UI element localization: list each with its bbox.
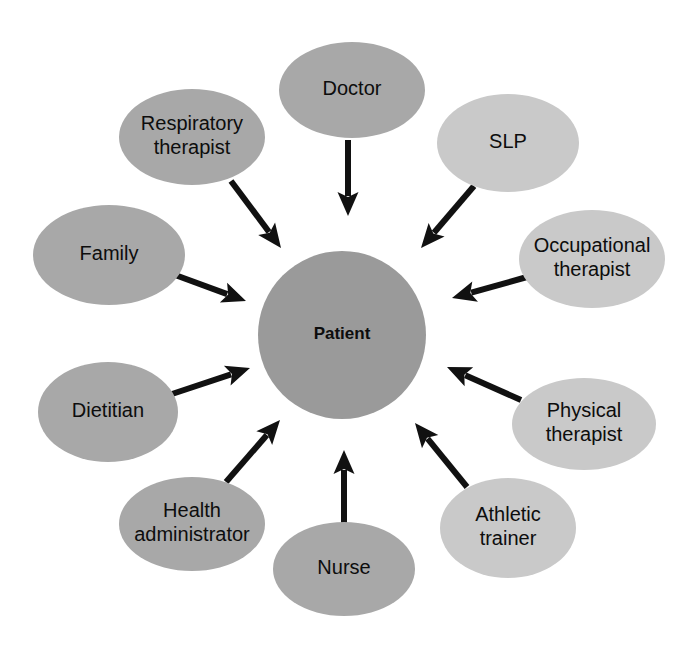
node-health-administrator-label-line-0: Health (163, 499, 221, 521)
diagram-canvas: DoctorRespiratorytherapistSLPFamilyOccup… (0, 0, 683, 654)
arrow-dietitian-to-patient (172, 366, 250, 394)
node-health-administrator[interactable]: Healthadministrator (119, 477, 265, 571)
node-dietitian-label-line-0: Dietitian (72, 399, 144, 421)
node-health-administrator-label-line-1: administrator (134, 523, 250, 545)
arrow-nurse-to-patient (334, 450, 355, 525)
node-family-label-line-0: Family (80, 242, 139, 264)
node-family[interactable]: Family (33, 205, 185, 305)
node-doctor-label-line-0: Doctor (323, 77, 382, 99)
arrow-health-administrator-to-patient-shaft (226, 435, 267, 482)
node-occupational-therapist-label-line-1: therapist (554, 258, 631, 280)
arrow-occupational-therapist-to-patient-shaft (471, 277, 527, 293)
node-physical-therapist-label-line-0: Physical (547, 399, 621, 421)
arrow-health-administrator-to-patient (226, 420, 280, 482)
node-respiratory-therapist[interactable]: Respiratorytherapist (119, 89, 265, 185)
arrow-physical-therapist-to-patient-shaft (465, 375, 521, 400)
node-respiratory-therapist-label-line-0: Respiratory (141, 112, 243, 134)
node-respiratory-therapist-label-line-1: therapist (154, 136, 231, 158)
node-occupational-therapist[interactable]: Occupationaltherapist (519, 210, 665, 308)
node-dietitian-label: Dietitian (72, 399, 144, 421)
node-patient[interactable]: Patient (258, 251, 426, 419)
care-team-diagram: DoctorRespiratorytherapistSLPFamilyOccup… (0, 0, 683, 654)
node-doctor[interactable]: Doctor (279, 42, 425, 138)
center-node-layer: Patient (258, 251, 426, 419)
arrow-respiratory-therapist-to-patient-shaft (231, 181, 269, 232)
arrow-respiratory-therapist-to-patient (231, 181, 281, 248)
node-athletic-trainer[interactable]: Athletictrainer (440, 478, 576, 578)
node-occupational-therapist-label-line-0: Occupational (534, 234, 651, 256)
arrow-athletic-trainer-to-patient-shaft (428, 439, 467, 487)
node-dietitian[interactable]: Dietitian (38, 362, 178, 462)
arrow-slp-to-patient-shaft (434, 186, 474, 233)
node-family-label: Family (80, 242, 139, 264)
node-doctor-label: Doctor (323, 77, 382, 99)
node-athletic-trainer-label-line-0: Athletic (475, 503, 541, 525)
arrow-slp-to-patient (421, 186, 474, 248)
arrow-dietitian-to-patient-shaft (172, 374, 231, 394)
node-nurse[interactable]: Nurse (273, 522, 415, 616)
node-slp[interactable]: SLP (437, 94, 579, 192)
arrow-doctor-to-patient (338, 140, 359, 216)
arrow-athletic-trainer-to-patient (415, 423, 467, 487)
node-nurse-label: Nurse (317, 556, 370, 578)
node-physical-therapist[interactable]: Physicaltherapist (512, 378, 656, 470)
node-athletic-trainer-label-line-1: trainer (480, 527, 537, 549)
arrow-occupational-therapist-to-patient (452, 277, 527, 302)
node-slp-label-line-0: SLP (489, 130, 527, 152)
node-slp-label: SLP (489, 130, 527, 152)
node-patient-label: Patient (314, 324, 371, 343)
arrow-family-to-patient (167, 272, 246, 303)
arrow-physical-therapist-to-patient (447, 367, 521, 400)
node-nurse-label-line-0: Nurse (317, 556, 370, 578)
node-physical-therapist-label-line-1: therapist (546, 423, 623, 445)
